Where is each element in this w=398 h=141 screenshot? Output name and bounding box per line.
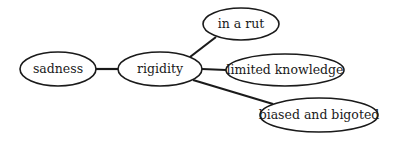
node-biased-and-bigoted: biased and bigoted: [259, 98, 380, 132]
node-label: in a rut: [218, 16, 265, 31]
edge-rigidity-limited: [202, 69, 226, 70]
node-limited-knowledge: limited knowledge: [226, 54, 344, 86]
node-in-a-rut: in a rut: [203, 8, 279, 40]
node-label: limited knowledge: [227, 62, 344, 77]
node-label: sadness: [33, 61, 83, 76]
concept-diagram: sadness rigidity in a rut limited knowle…: [0, 0, 398, 141]
node-label: biased and bigoted: [259, 107, 380, 122]
node-label: rigidity: [137, 61, 184, 76]
node-rigidity: rigidity: [118, 52, 202, 86]
edge-rigidity-rut: [190, 37, 216, 57]
node-sadness: sadness: [20, 52, 96, 86]
